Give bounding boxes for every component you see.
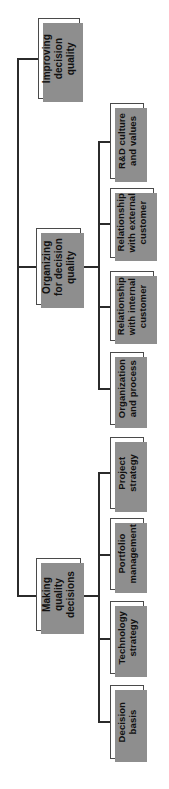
node-decision-basis[interactable]: Decision basis bbox=[110, 685, 144, 759]
node-label: Decision basis bbox=[116, 702, 138, 742]
connector-child-technology-strategy bbox=[98, 638, 110, 640]
connector-child-decision-basis bbox=[98, 721, 110, 723]
node-relationship-with-external-customer[interactable]: Relationship with external customer bbox=[110, 188, 154, 258]
connector-child-internal-customer bbox=[98, 306, 110, 308]
node-project-strategy[interactable]: Project strategy bbox=[110, 437, 144, 509]
node-label: Making quality decisions bbox=[41, 571, 76, 618]
node-improving-decision-quality[interactable]: Improving decision quality bbox=[38, 18, 80, 99]
node-technology-strategy[interactable]: Technology strategy bbox=[110, 601, 144, 674]
connector-child-project-strategy bbox=[98, 472, 110, 474]
connector-root-trunk bbox=[17, 58, 19, 596]
node-label: Organizing for decision quality bbox=[41, 238, 76, 296]
connector-child-rd-culture bbox=[98, 141, 110, 143]
connector-branch-1-stub bbox=[17, 266, 36, 268]
node-organization-and-process[interactable]: Organization and process bbox=[110, 352, 144, 425]
node-label: Relationship with internal customer bbox=[115, 277, 149, 335]
hierarchy-diagram: Improving decision quality Organizing fo… bbox=[0, 0, 169, 789]
connector-branch-1-trunk bbox=[98, 141, 100, 389]
node-making-quality-decisions[interactable]: Making quality decisions bbox=[36, 558, 81, 631]
node-relationship-with-internal-customer[interactable]: Relationship with internal customer bbox=[110, 271, 154, 341]
node-label: Improving decision quality bbox=[41, 34, 76, 83]
node-label: Technology strategy bbox=[116, 611, 138, 665]
node-label: Relationship with external customer bbox=[115, 193, 149, 252]
node-rd-culture-and-values[interactable]: R&D culture and values bbox=[110, 103, 144, 179]
node-label: Portfolio management bbox=[116, 524, 138, 584]
node-label: Organization and process bbox=[116, 359, 138, 418]
connector-child-organization-process bbox=[98, 388, 110, 390]
connector-branch-2-trunk bbox=[98, 472, 100, 722]
connector-root-stub bbox=[17, 58, 38, 60]
node-organizing-for-decision-quality[interactable]: Organizing for decision quality bbox=[36, 228, 81, 305]
connector-branch-2-stub bbox=[17, 595, 36, 597]
node-label: R&D culture and values bbox=[116, 113, 138, 169]
node-label: Project strategy bbox=[116, 454, 138, 492]
connector-child-external-customer bbox=[98, 223, 110, 225]
connector-child-portfolio-management bbox=[98, 554, 110, 556]
node-portfolio-management[interactable]: Portfolio management bbox=[110, 518, 144, 590]
